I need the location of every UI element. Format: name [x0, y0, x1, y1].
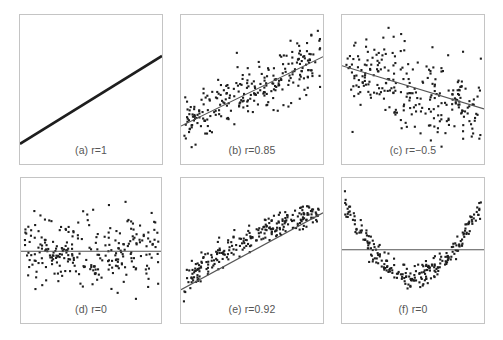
data-point: [112, 272, 114, 274]
data-point: [372, 57, 374, 59]
data-point: [407, 93, 409, 95]
data-point: [282, 104, 284, 106]
data-point: [425, 276, 427, 278]
data-point: [222, 251, 224, 253]
data-point: [242, 74, 244, 76]
data-point: [59, 253, 61, 255]
data-point: [307, 69, 309, 71]
data-point: [383, 48, 385, 50]
data-point: [119, 232, 121, 234]
data-point: [105, 255, 107, 257]
data-point: [152, 243, 154, 245]
data-point: [28, 266, 30, 268]
data-point: [263, 95, 265, 97]
data-point: [124, 249, 126, 251]
data-point: [412, 68, 414, 70]
data-point: [377, 70, 379, 72]
data-point: [30, 229, 32, 231]
data-point: [209, 130, 211, 132]
data-point: [425, 278, 427, 280]
data-point: [303, 217, 305, 219]
data-point: [227, 241, 229, 243]
data-point: [385, 82, 387, 84]
data-point: [65, 229, 67, 231]
data-point: [257, 229, 259, 231]
data-point: [425, 260, 427, 262]
data-point: [472, 132, 474, 134]
data-point: [235, 249, 237, 251]
data-point: [456, 236, 458, 238]
data-point: [393, 73, 395, 75]
data-point: [122, 255, 124, 257]
data-point: [348, 211, 350, 213]
data-point: [188, 113, 190, 115]
data-point: [133, 257, 135, 259]
data-point: [436, 273, 438, 275]
data-point: [287, 106, 289, 108]
data-point: [67, 248, 69, 250]
data-point: [378, 62, 380, 64]
data-point: [375, 261, 377, 263]
data-point: [110, 288, 112, 290]
data-point: [292, 82, 294, 84]
data-point: [246, 79, 248, 81]
data-point: [278, 80, 280, 82]
data-point: [374, 246, 376, 248]
data-point: [27, 252, 29, 254]
scatter-panel-b: (b) r=0.85: [180, 14, 324, 165]
data-point: [468, 100, 470, 102]
data-point: [408, 78, 410, 80]
data-point: [354, 219, 356, 221]
data-point: [429, 99, 431, 101]
data-point: [409, 272, 411, 274]
data-point: [415, 110, 417, 112]
data-point: [93, 265, 95, 267]
data-point: [471, 128, 473, 130]
data-point: [267, 101, 269, 103]
data-point: [41, 236, 43, 238]
data-point: [203, 103, 205, 105]
data-point: [455, 102, 457, 104]
data-point: [409, 107, 411, 109]
scatter-panel-d: (d) r=0: [20, 177, 162, 324]
data-point: [45, 279, 47, 281]
data-point: [379, 254, 381, 256]
data-point: [422, 283, 424, 285]
data-point: [428, 267, 430, 269]
data-point: [379, 255, 381, 257]
data-point: [401, 127, 403, 129]
data-point: [446, 104, 448, 106]
data-point: [384, 109, 386, 111]
data-point: [421, 271, 423, 273]
data-point: [125, 274, 127, 276]
data-point: [378, 52, 380, 54]
data-point: [411, 113, 413, 115]
data-point: [432, 66, 434, 68]
data-point: [447, 54, 449, 56]
data-point: [448, 257, 450, 259]
data-point: [128, 243, 130, 245]
data-point: [249, 98, 251, 100]
data-point: [362, 239, 364, 241]
data-point: [279, 227, 281, 229]
data-point: [409, 97, 411, 99]
data-point: [149, 241, 151, 243]
data-point: [96, 279, 98, 281]
data-point: [461, 112, 463, 114]
data-point: [292, 73, 294, 75]
data-point: [429, 124, 431, 126]
data-point: [33, 210, 35, 212]
data-point: [184, 96, 186, 98]
data-point: [121, 262, 123, 264]
data-point: [400, 119, 402, 121]
data-point: [242, 97, 244, 99]
data-point: [388, 27, 390, 29]
data-line: [20, 56, 162, 144]
data-point: [276, 222, 278, 224]
data-point: [452, 89, 454, 91]
data-point: [366, 234, 368, 236]
data-point: [264, 219, 266, 221]
data-point: [189, 109, 191, 111]
data-point: [265, 226, 267, 228]
data-point: [301, 60, 303, 62]
